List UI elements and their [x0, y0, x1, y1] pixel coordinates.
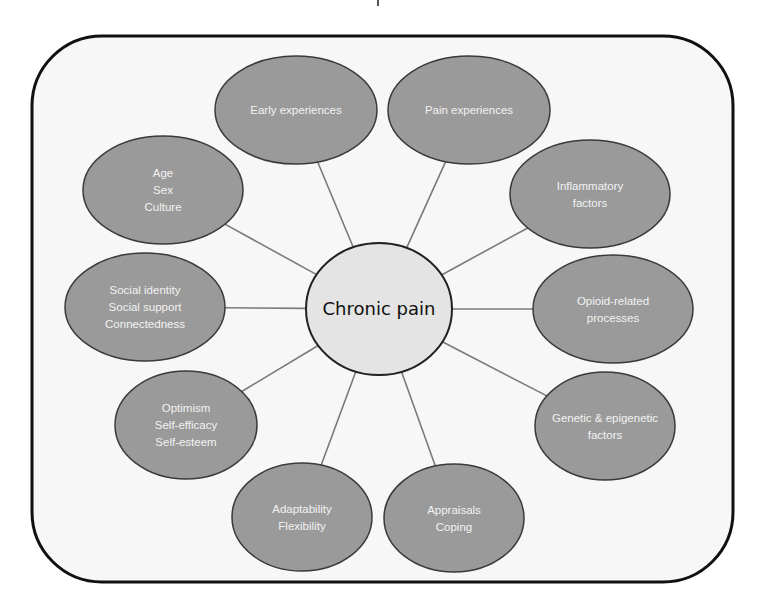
node-early-experiences: Early experiences: [215, 56, 377, 164]
node-label: Appraisals: [427, 504, 481, 516]
node-label: Social support: [109, 301, 183, 313]
center-node: Chronic pain: [306, 243, 452, 375]
node-ellipse: [384, 464, 524, 572]
node-opioid-related-processes: Opioid-relatedprocesses: [533, 255, 693, 363]
node-optimism-self-efficacy-self-esteem: OptimismSelf-efficacySelf-esteem: [115, 371, 257, 479]
node-label: Connectedness: [105, 318, 185, 330]
center-label: Chronic pain: [323, 298, 436, 319]
node-label: Culture: [144, 201, 181, 213]
node-adaptability-flexibility: AdaptabilityFlexibility: [232, 463, 372, 571]
node-label: Genetic & epigenetic: [552, 412, 658, 424]
node-label: Social identity: [110, 284, 181, 296]
node-label: Adaptability: [272, 503, 332, 515]
node-label: Inflammatory: [557, 180, 624, 192]
node-label: Optimism: [162, 402, 211, 414]
node-label: Pain experiences: [425, 104, 513, 116]
node-label: factors: [588, 429, 623, 441]
node-genetic-epigenetic-factors: Genetic & epigeneticfactors: [535, 372, 675, 480]
node-label: Self-esteem: [155, 436, 216, 448]
node-age-sex-culture: AgeSexCulture: [83, 136, 243, 244]
node-social-identity-support-connectedness: Social identitySocial supportConnectedne…: [65, 253, 225, 361]
node-ellipse: [533, 255, 693, 363]
node-pain-experiences: Pain experiences: [388, 56, 550, 164]
node-label: Opioid-related: [577, 295, 649, 307]
node-label: processes: [587, 312, 640, 324]
node-inflammatory-factors: Inflammatoryfactors: [510, 140, 670, 248]
node-label: factors: [573, 197, 608, 209]
node-appraisals-coping: AppraisalsCoping: [384, 464, 524, 572]
node-ellipse: [510, 140, 670, 248]
connector-social-identity-support-connectedness: [225, 308, 306, 309]
node-label: Coping: [436, 521, 472, 533]
chronic-pain-diagram: Early experiencesPain experiencesInflamm…: [0, 0, 757, 606]
node-ellipse: [535, 372, 675, 480]
node-label: Age: [153, 167, 173, 179]
node-label: Early experiences: [250, 104, 342, 116]
node-label: Sex: [153, 184, 173, 196]
node-label: Self-efficacy: [155, 419, 218, 431]
node-label: Flexibility: [278, 520, 326, 532]
node-ellipse: [232, 463, 372, 571]
